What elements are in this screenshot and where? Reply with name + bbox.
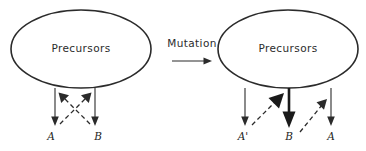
- panel-before: Precursors A B: [11, 10, 151, 142]
- solid-arrow-to-a-after: [327, 88, 335, 126]
- product-label-a-after: A: [326, 130, 335, 142]
- panel-after: Precursors A' B A: [218, 10, 358, 142]
- precursors-label-before: Precursors: [51, 42, 110, 54]
- diagram-canvas: Precursors A B Mutation: [0, 0, 366, 151]
- solid-arrow-to-b-before: [91, 88, 99, 126]
- solid-arrow-to-a-prime-after: [241, 88, 249, 126]
- product-label-b-before: B: [93, 130, 102, 142]
- product-label-b-after: B: [284, 130, 293, 142]
- dashed-arrow-a-prime-to-b-after: [252, 93, 284, 125]
- transition-arrow-icon: [172, 58, 212, 65]
- solid-arrow-to-a-before: [51, 88, 59, 126]
- transition-label: Mutation: [167, 37, 217, 49]
- dashed-arrow-b-to-a-after: [300, 99, 327, 132]
- product-label-a-prime-after: A': [237, 130, 248, 142]
- diagram-svg: Precursors A B Mutation: [0, 0, 366, 151]
- precursors-label-after: Precursors: [258, 42, 317, 54]
- product-label-a-before: A: [46, 130, 55, 142]
- transition-group: Mutation: [167, 37, 217, 64]
- solid-arrow-to-b-after: [283, 88, 296, 128]
